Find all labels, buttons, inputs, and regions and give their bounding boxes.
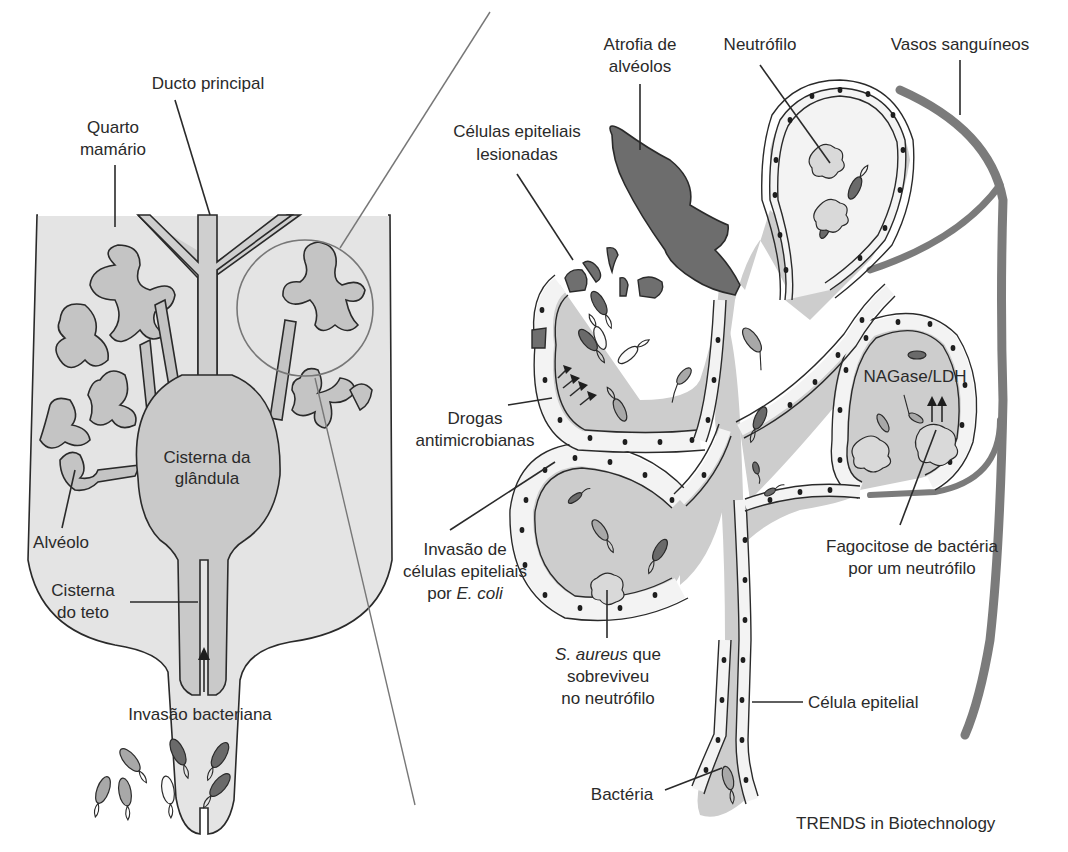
cell-nucleus (896, 319, 901, 325)
label-ducto-principal: Ducto principal (152, 74, 264, 93)
cell-nucleus (524, 497, 529, 503)
bacterium-icon (88, 775, 114, 819)
cell-nucleus (702, 472, 707, 478)
cell-nucleus (864, 335, 869, 341)
label-bacteria: Bactéria (591, 785, 654, 804)
label-quarto-1: Quarto (87, 118, 139, 137)
cell-nucleus (720, 697, 725, 703)
cell-nucleus (573, 455, 578, 461)
cell-nucleus (778, 232, 783, 238)
diagram-svg: Cisterna da glândula Ducto principal Qua… (0, 0, 1068, 852)
label-saureus-2: sobreviveu (567, 667, 649, 686)
cell-nucleus (858, 255, 863, 261)
label-cisterna-teto-1: Cisterna (51, 581, 115, 600)
label-drogas-1: Drogas (448, 409, 503, 428)
cell-nucleus (951, 345, 956, 351)
cell-nucleus (743, 577, 748, 583)
cell-nucleus (928, 321, 933, 327)
label-invasao-ecoli-2: células epiteliais (403, 562, 527, 581)
cell-nucleus (898, 187, 903, 193)
cell-nucleus (813, 379, 818, 385)
cell-nucleus (643, 472, 648, 478)
bacterium-icon (616, 334, 652, 366)
cell-nucleus (828, 487, 833, 493)
cell-nucleus (740, 697, 745, 703)
cell-nucleus (653, 592, 658, 598)
cell-nucleus (540, 307, 545, 313)
label-cisterna-glandula-1: Cisterna da (164, 448, 251, 467)
label-fagocitose-1: Fagocitose de bactéria (826, 537, 999, 556)
label-invasao-ecoli-prefix: por (427, 584, 456, 603)
label-cisterna-teto-2: do teto (57, 603, 109, 622)
cell-nucleus (774, 157, 779, 163)
cell-nucleus (722, 657, 727, 663)
cell-nucleus (768, 497, 773, 503)
cell-nucleus (866, 91, 871, 97)
cell-nucleus (788, 117, 793, 123)
figure-canvas: Cisterna da glândula Ducto principal Qua… (0, 0, 1068, 852)
cell-nucleus (543, 377, 548, 383)
label-alveolo: Alvéolo (33, 533, 89, 552)
bacterium-icon (908, 351, 926, 359)
cell-nucleus (704, 767, 709, 773)
label-fagocitose-2: por um neutrófilo (848, 559, 976, 578)
cell-nucleus (588, 435, 593, 441)
cell-nucleus (788, 402, 793, 408)
cell-nucleus (744, 777, 749, 783)
label-drogas-2: antimicrobianas (415, 431, 534, 450)
cell-nucleus (706, 417, 711, 423)
label-cisterna-glandula-2: glândula (175, 469, 240, 488)
label-celula-epitelial: Célula epitelial (808, 693, 919, 712)
label-ecoli: E. coli (457, 584, 505, 603)
label-neutrofilo: Neutrófilo (724, 35, 797, 54)
label-atrofia-1: Atrofia de (604, 35, 677, 54)
label-saureus-italic: S. aureus (555, 645, 628, 664)
cell-nucleus (883, 225, 888, 231)
label-quarto-2: mamário (80, 140, 146, 159)
label-saureus-3: no neutrófilo (561, 689, 655, 708)
cell-nucleus (838, 457, 843, 463)
cell-nucleus (784, 267, 789, 273)
cell-nucleus (743, 617, 748, 623)
label-saureus-suffix: que (628, 645, 661, 664)
cell-nucleus (618, 605, 623, 611)
cell-nucleus (670, 497, 675, 503)
leader-celulas-lesionadas (517, 174, 573, 260)
cell-nucleus (740, 737, 745, 743)
cell-nucleus (716, 337, 721, 343)
cell-nucleus (860, 317, 865, 323)
cell-nucleus (798, 489, 803, 495)
cell-nucleus (543, 592, 548, 598)
cell-nucleus (743, 537, 748, 543)
cell-nucleus (608, 459, 613, 465)
label-invasao-ecoli-3: por E. coli (427, 584, 504, 603)
cell-nucleus (716, 737, 721, 743)
cell-nucleus (891, 112, 896, 118)
bacterium-icon (736, 325, 774, 370)
cell-nucleus (623, 439, 628, 445)
cell-nucleus (690, 437, 695, 443)
cell-nucleus (658, 439, 663, 445)
bacterium-icon (117, 777, 136, 820)
cell-nucleus (741, 657, 746, 663)
label-invasao-bacteriana: Invasão bacteriana (128, 705, 272, 724)
cell-nucleus (844, 367, 849, 373)
cell-nucleus (901, 147, 906, 153)
label-nagase-ldh: NAGase/LDH (864, 367, 967, 386)
atrophied-alveolus (610, 126, 740, 295)
cell-nucleus (578, 605, 583, 611)
label-celulas-lesionadas-2: lesionadas (476, 145, 557, 164)
leader-ducto (175, 100, 210, 215)
cell-nucleus (810, 93, 815, 99)
label-invasao-ecoli-1: Invasão de (423, 540, 506, 559)
cell-nucleus (712, 377, 717, 383)
label-atrofia-2: alvéolos (609, 57, 671, 76)
figure-credit: TRENDS in Biotechnology (796, 814, 996, 833)
cell-nucleus (773, 192, 778, 198)
cell-nucleus (838, 87, 843, 93)
label-saureus-1: S. aureus que (555, 645, 661, 664)
cell-nucleus (558, 417, 563, 423)
cell-nucleus (836, 352, 841, 358)
label-celulas-lesionadas-1: Células epiteliais (453, 122, 581, 141)
cell-nucleus (520, 527, 525, 533)
